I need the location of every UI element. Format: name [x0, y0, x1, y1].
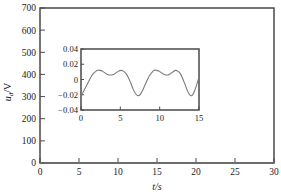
x-ticklabel-15: 15 [152, 167, 162, 177]
y-ticklabel-0: 0 [31, 158, 36, 168]
x-ticklabel-10: 10 [113, 167, 123, 177]
y-ticklabel-100: 100 [22, 136, 37, 146]
inset-axes [81, 49, 199, 110]
x-ticklabel-20: 20 [191, 167, 201, 177]
y-ticklabel-700: 700 [22, 3, 37, 13]
inset-x-ticklabel-10: 10 [155, 113, 164, 123]
inset-x-ticklabel-5: 5 [118, 113, 122, 123]
y-axis-label-unit: /V [2, 82, 13, 93]
x-ticklabel-0: 0 [38, 167, 43, 177]
x-ticklabel-5: 5 [77, 167, 82, 177]
inset-plot-background [81, 49, 199, 110]
main-y-ticklabels: 0 100 200 300 400 500 600 700 [22, 3, 37, 168]
x-ticklabel-25: 25 [230, 167, 240, 177]
y-ticklabel-500: 500 [22, 48, 37, 58]
main-x-ticklabels: 0 5 10 15 20 25 30 [38, 167, 279, 177]
y-axis-label: ud/V [2, 82, 15, 101]
y-axis-label-group: ud/V [2, 82, 15, 101]
chart-canvas: 0 100 200 300 400 500 600 700 0 5 10 15 … [0, 0, 281, 196]
inset-y-ticklabel-0.02: 0.02 [63, 59, 78, 69]
y-ticklabel-200: 200 [22, 114, 37, 124]
x-axis-label: t/s [152, 181, 162, 192]
y-ticklabel-600: 600 [22, 26, 37, 36]
inset-y-ticklabel-neg0.04: −0.04 [58, 105, 79, 115]
inset-y-ticklabel-0.04: 0.04 [63, 44, 79, 54]
inset-y-ticklabel-0: 0 [74, 75, 78, 85]
inset-y-ticklabel-neg0.02: −0.02 [58, 90, 78, 100]
y-ticklabel-300: 300 [22, 92, 37, 102]
x-ticklabel-30: 30 [269, 167, 279, 177]
figure-container: 0 100 200 300 400 500 600 700 0 5 10 15 … [0, 0, 281, 196]
inset-x-ticklabel-15: 15 [195, 113, 204, 123]
y-ticklabel-400: 400 [22, 70, 37, 80]
inset-x-ticklabel-0: 0 [79, 113, 83, 123]
